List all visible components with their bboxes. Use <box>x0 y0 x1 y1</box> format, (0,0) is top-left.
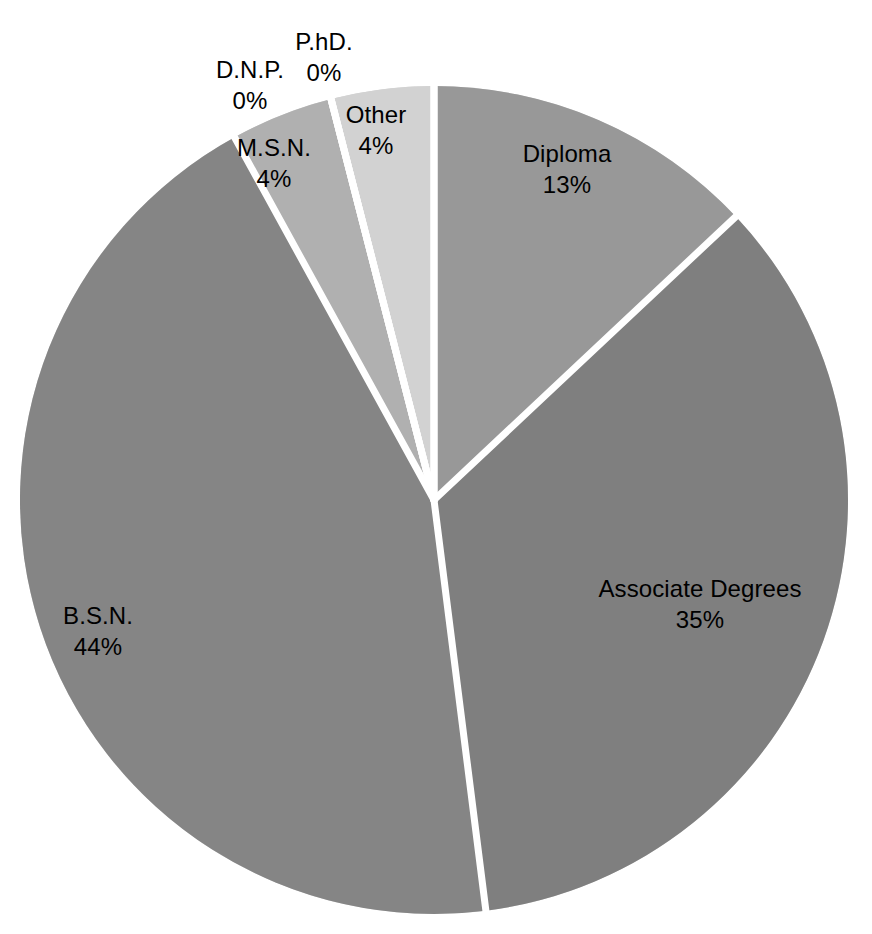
pie-chart-canvas <box>0 0 872 934</box>
pie-slice-group <box>20 86 848 914</box>
pie-chart: Diploma13%Associate Degrees35%B.S.N.44%M… <box>0 0 872 934</box>
